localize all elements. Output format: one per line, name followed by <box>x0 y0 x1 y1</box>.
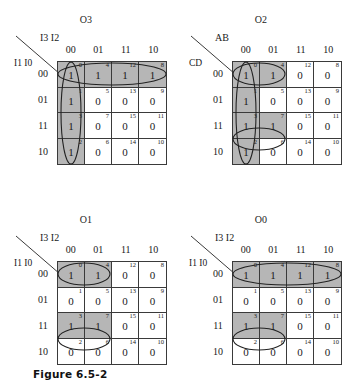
column-header: 00 <box>57 244 85 255</box>
cell-value: 0 <box>260 345 286 359</box>
kmap-cell: 01 <box>58 262 85 288</box>
row-headers: 00011110 <box>207 61 229 165</box>
cell-value: 0 <box>85 145 111 159</box>
row-headers: 00011110 <box>207 261 229 365</box>
kmap-cell: 10 <box>58 288 85 314</box>
kmap-cell: 71 <box>260 313 287 339</box>
cell-value: 0 <box>58 345 84 359</box>
kmap-cell: 150 <box>287 113 314 139</box>
kmap-grid: 01411218110501309031711501102060140100 <box>232 261 342 365</box>
row-header: 11 <box>207 113 229 139</box>
cell-value: 0 <box>260 145 286 159</box>
cell-value: 0 <box>112 294 138 308</box>
kmap-cell: 10 <box>233 288 260 314</box>
kmap-cell: 41 <box>260 62 287 88</box>
row-header: 00 <box>207 261 229 287</box>
kmap-cell: 31 <box>58 313 85 339</box>
cell-value: 0 <box>287 94 313 108</box>
cell-value: 1 <box>139 68 166 82</box>
kmap-cell: 130 <box>112 88 139 114</box>
cell-value: 0 <box>287 68 313 82</box>
cell-value: 1 <box>58 145 84 159</box>
column-headers: 00011110 <box>232 44 342 55</box>
cell-value: 0 <box>112 268 138 282</box>
kmap-cell: 50 <box>85 88 112 114</box>
column-header: 11 <box>112 44 140 55</box>
kmap-cell: 70 <box>85 113 112 139</box>
kmap-cell: 60 <box>260 339 287 365</box>
cell-value: 0 <box>287 319 313 333</box>
cell-value: 1 <box>58 319 84 333</box>
cell-value: 0 <box>112 119 138 133</box>
kmap-cell: 90 <box>314 88 341 114</box>
row-header: 00 <box>32 261 54 287</box>
row-header: 01 <box>207 87 229 113</box>
kmap-cell: 100 <box>139 139 166 165</box>
kmap-cell: 50 <box>260 288 287 314</box>
kmap-cell: 150 <box>112 313 139 339</box>
cell-value: 0 <box>314 68 341 82</box>
axis-left-label: I1 I0 <box>14 258 32 268</box>
cell-value: 0 <box>287 145 313 159</box>
row-header: 11 <box>207 313 229 339</box>
kmap-cell: 121 <box>112 62 139 88</box>
kmap-cell: 140 <box>287 139 314 165</box>
column-header: 00 <box>57 44 85 55</box>
cell-value: 1 <box>58 68 84 82</box>
kmap-title: O1 <box>6 214 166 225</box>
kmap-title: O3 <box>6 14 166 25</box>
column-header: 11 <box>287 244 315 255</box>
kmap-cell: 100 <box>139 339 166 365</box>
column-header: 01 <box>260 44 288 55</box>
cell-value: 1 <box>233 319 259 333</box>
kmap-cell: 41 <box>85 62 112 88</box>
kmap-cell: 100 <box>314 339 341 365</box>
cell-value: 0 <box>139 294 166 308</box>
kmap-cell: 80 <box>139 262 166 288</box>
kmap-cell: 41 <box>85 262 112 288</box>
row-header: 10 <box>32 139 54 165</box>
kmap-cell: 81 <box>314 262 341 288</box>
kmap-grid: 01411208010501309031711501102060140100 <box>57 261 167 365</box>
axis-left-label: I1 I0 <box>189 258 207 268</box>
column-header: 10 <box>140 44 168 55</box>
kmap-o2: O2ABCD0001111000011110014112080115013090… <box>181 14 341 184</box>
column-headers: 00011110 <box>57 244 167 255</box>
kmap-cell: 110 <box>314 113 341 139</box>
cell-value: 0 <box>139 345 166 359</box>
cell-value: 1 <box>233 145 259 159</box>
cell-value: 0 <box>287 294 313 308</box>
column-header: 00 <box>232 44 260 55</box>
axis-top-label: I3 I2 <box>40 32 59 43</box>
cell-value: 0 <box>314 345 341 359</box>
axis-left-label: I1 I0 <box>14 58 32 68</box>
kmap-cell: 90 <box>314 288 341 314</box>
cell-value: 0 <box>139 119 166 133</box>
cell-value: 1 <box>58 119 84 133</box>
cell-value: 0 <box>233 294 259 308</box>
kmap-o3: O3I3 I2I1 I00001111000011110014112181115… <box>6 14 166 184</box>
row-header: 10 <box>32 339 54 365</box>
column-header: 00 <box>232 244 260 255</box>
column-header: 01 <box>85 44 113 55</box>
kmap-cell: 21 <box>233 139 260 165</box>
cell-value: 0 <box>260 94 286 108</box>
cell-value: 1 <box>260 68 286 82</box>
kmap-cell: 130 <box>112 288 139 314</box>
cell-value: 1 <box>85 268 111 282</box>
karnaugh-map-figure: O3I3 I2I1 I00001111000011110014112181115… <box>0 0 343 388</box>
row-header: 11 <box>32 313 54 339</box>
kmap-cell: 110 <box>314 313 341 339</box>
column-header: 10 <box>315 244 343 255</box>
cell-value: 1 <box>58 268 84 282</box>
kmap-cell: 140 <box>112 139 139 165</box>
cell-value: 0 <box>314 94 341 108</box>
cell-value: 0 <box>85 94 111 108</box>
kmap-cell: 140 <box>287 339 314 365</box>
cell-value: 1 <box>260 119 286 133</box>
cell-value: 1 <box>85 319 111 333</box>
kmap-cell: 60 <box>85 339 112 365</box>
row-header: 10 <box>207 339 229 365</box>
cell-value: 0 <box>287 119 313 133</box>
kmap-cell: 130 <box>287 288 314 314</box>
